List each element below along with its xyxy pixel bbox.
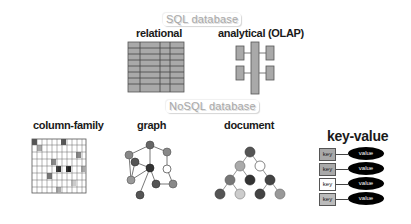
arrow-icon: [336, 154, 348, 155]
key-box: key: [319, 163, 336, 176]
analytical-title: analytical (OLAP): [218, 27, 304, 39]
value-ellipse: value: [348, 177, 384, 190]
key-box: key: [319, 178, 336, 191]
value-ellipse: value: [348, 147, 384, 160]
key-box: key: [319, 193, 336, 206]
olap-cube-icon: [236, 42, 276, 94]
value-ellipse: value: [348, 192, 384, 205]
arrow-icon: [336, 184, 348, 185]
arrow-icon: [336, 169, 348, 170]
kv-pair-4: key value: [319, 192, 389, 206]
graph-title: graph: [137, 119, 166, 131]
kv-pair-2: key value: [319, 162, 389, 176]
kv-pair-3: key value: [319, 177, 389, 191]
nosql-database-label: NoSQL database: [166, 100, 259, 113]
table-grid-icon: [128, 42, 184, 92]
key-box: key: [319, 148, 336, 161]
column-grid-icon: [32, 139, 86, 193]
key-value-pairs-icon: key value key value key value key value: [319, 147, 389, 206]
document-tree-icon: [214, 136, 286, 206]
sql-database-label: SQL database: [163, 13, 241, 26]
kv-pair-1: key value: [319, 147, 389, 161]
column-family-title: column-family: [33, 119, 104, 131]
document-title: document: [224, 119, 274, 131]
key-value-title: key-value: [327, 128, 388, 144]
graph-network-icon: [120, 140, 180, 210]
relational-title: relational: [136, 27, 182, 39]
value-ellipse: value: [348, 162, 384, 175]
arrow-icon: [336, 199, 348, 200]
